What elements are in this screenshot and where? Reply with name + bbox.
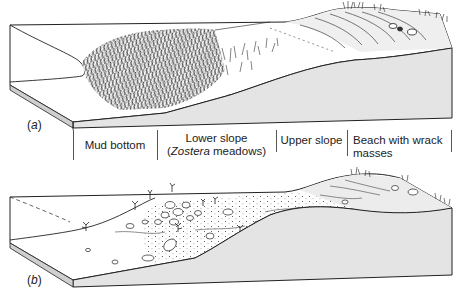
zone-upper-slope: Upper slope xyxy=(276,130,347,162)
zone-label: Beach with wrack xyxy=(353,134,453,147)
zone-label: Lower slope xyxy=(157,132,276,145)
panel-label-a: (a) xyxy=(27,118,42,132)
zone-beach: Beach with wrack masses xyxy=(347,130,453,162)
zone-mud-bottom: Mud bottom xyxy=(73,130,157,162)
panel-label-a-letter: a xyxy=(31,118,38,132)
zone-label-sub: masses xyxy=(353,147,453,160)
panel-a-block xyxy=(10,1,452,130)
panel-b-block xyxy=(10,167,452,287)
zone-label: Upper slope xyxy=(280,134,342,146)
zone-lower-slope: Lower slope (Zostera meadows) xyxy=(157,130,276,162)
zone-label: Mud bottom xyxy=(85,139,146,151)
zone-label-sub: (Zostera meadows) xyxy=(157,145,276,158)
zone-divider xyxy=(451,130,452,152)
panel-label-b-letter: b xyxy=(31,273,38,287)
panel-label-b: (b) xyxy=(27,273,42,287)
